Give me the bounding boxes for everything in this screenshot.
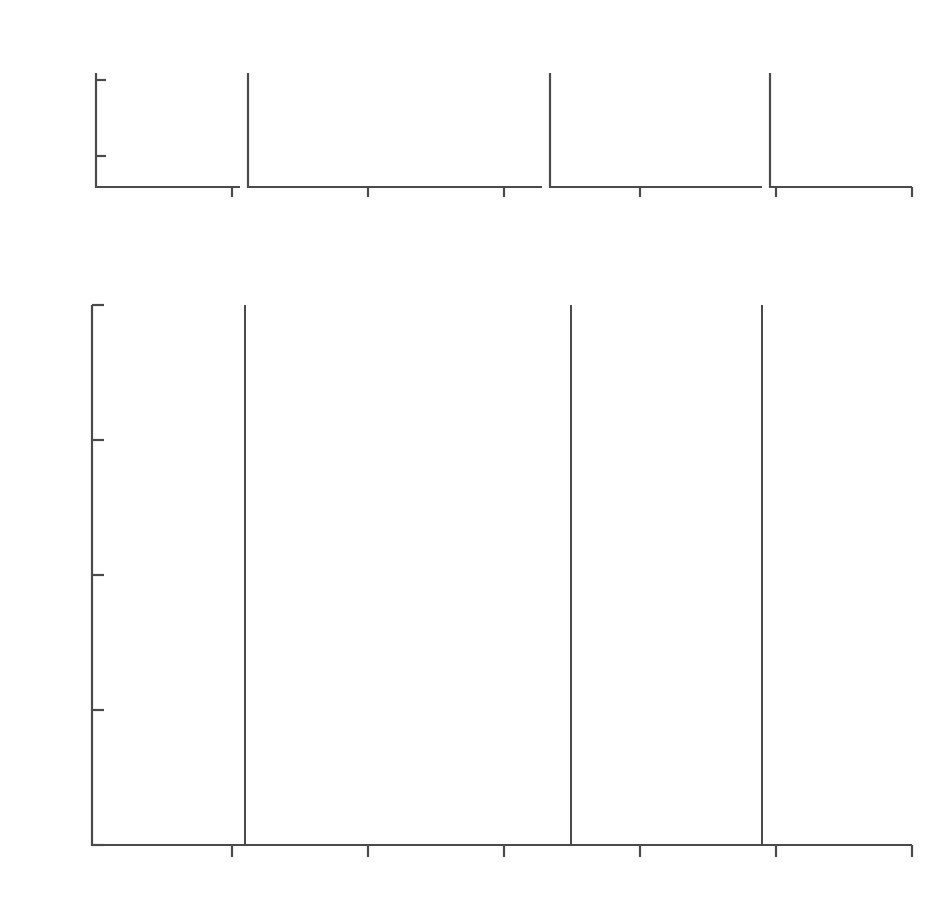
top-xtick-marks [232, 187, 912, 197]
bottom-ytick-marks [92, 305, 104, 845]
top-chart-panel [96, 73, 912, 197]
top-axis-panel2 [248, 73, 542, 187]
top-axis-panel4 [770, 73, 912, 187]
bottom-xtick-marks [232, 845, 912, 857]
top-axes [96, 73, 912, 187]
top-axis-panel3 [550, 73, 762, 187]
top-axis-panel1 [96, 73, 240, 187]
bottom-axis-lines [92, 305, 912, 845]
bottom-phase-separators [245, 305, 762, 845]
bottom-chart-panel [92, 305, 912, 857]
chart-canvas [0, 0, 935, 913]
abab-design-figure [0, 0, 935, 913]
